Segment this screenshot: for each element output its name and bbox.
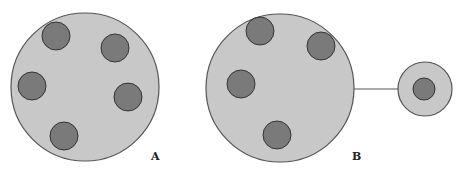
inner-circle-b-2 — [307, 32, 335, 60]
panel-label-a: A — [151, 150, 160, 163]
cell-diagram — [0, 0, 464, 173]
satellite-inner-circle-b — [413, 78, 435, 100]
panel-label-b: B — [352, 150, 361, 163]
inner-circle-a-1 — [42, 22, 70, 50]
inner-circle-a-5 — [50, 122, 78, 150]
inner-circle-a-3 — [18, 72, 46, 100]
inner-circle-b-1 — [246, 17, 274, 45]
inner-circle-b-4 — [263, 121, 291, 149]
inner-circle-a-4 — [114, 83, 142, 111]
inner-circle-a-2 — [101, 34, 129, 62]
inner-circle-b-3 — [227, 70, 255, 98]
